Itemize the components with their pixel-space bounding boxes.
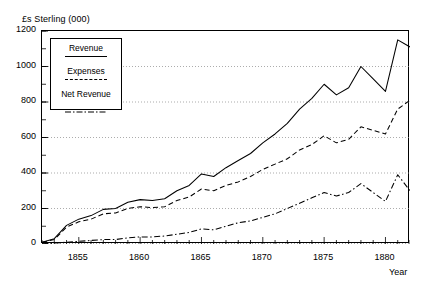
- x-tick-1860: 1860: [119, 252, 159, 262]
- y-tick-0: 0: [2, 237, 36, 247]
- legend-item-dashdot[interactable]: Net Revenue: [51, 89, 121, 104]
- x-tick-1880: 1880: [364, 252, 404, 262]
- legend-swatch-solid-icon: [65, 56, 107, 57]
- x-tick-1865: 1865: [180, 252, 220, 262]
- x-tick-1875: 1875: [303, 252, 343, 262]
- y-tick-200: 200: [2, 202, 36, 212]
- legend-label: Revenue: [51, 43, 121, 53]
- y-tick-1000: 1000: [2, 60, 36, 70]
- axis-major-ticks: [42, 31, 48, 244]
- x-axis-title: Year: [389, 267, 407, 277]
- y-tick-600: 600: [2, 131, 36, 141]
- x-tick-1855: 1855: [58, 252, 98, 262]
- legend-label: Expenses: [51, 66, 121, 76]
- y-axis-title: £s Sterling (000): [22, 14, 90, 24]
- y-tick-400: 400: [2, 166, 36, 176]
- y-tick-1200: 1200: [2, 24, 36, 34]
- legend-item-solid[interactable]: Revenue: [51, 43, 121, 57]
- y-tick-800: 800: [2, 95, 36, 105]
- x-tick-1870: 1870: [242, 252, 282, 262]
- chart-legend: RevenueExpensesNet Revenue: [50, 38, 122, 110]
- legend-item-dashed[interactable]: Expenses: [51, 66, 121, 80]
- figure-container: £s Sterling (000) Year 02004006008001000…: [0, 0, 427, 297]
- legend-swatch-dashed-icon: [65, 79, 107, 80]
- legend-swatch-dashdot-icon: [65, 100, 107, 104]
- legend-label: Net Revenue: [51, 89, 121, 99]
